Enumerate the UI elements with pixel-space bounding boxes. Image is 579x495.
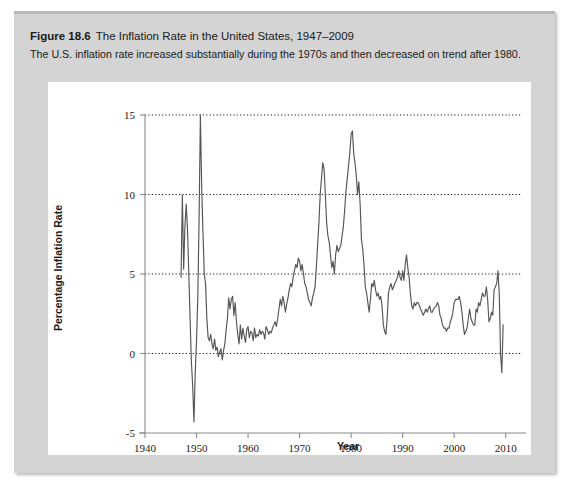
figure-subtitle: The U.S. inflation rate increased substa… xyxy=(30,47,543,62)
x-tick-label-2010: 2010 xyxy=(495,442,518,454)
x-tick-label-1940: 1940 xyxy=(134,442,157,454)
y-tick-label-5: 5 xyxy=(130,268,136,280)
y-tick-label--5: -5 xyxy=(126,427,136,439)
y-tick-label-0: 0 xyxy=(130,348,136,360)
inflation-series-line xyxy=(181,115,503,422)
x-tick-label-1990: 1990 xyxy=(392,442,415,454)
figure-title-line: Figure 18.6The Inflation Rate in the Uni… xyxy=(30,29,543,44)
chart-card: -5051015 1940195019601970198019902000201… xyxy=(48,82,531,455)
y-tick-label-10: 10 xyxy=(124,189,136,201)
x-axis-title: Year xyxy=(337,440,359,452)
figure-title: The Inflation Rate in the United States,… xyxy=(96,30,354,42)
figure-caption: Figure 18.6The Inflation Rate in the Uni… xyxy=(30,29,543,62)
x-tick-label-2000: 2000 xyxy=(443,442,466,454)
y-axis-title: Percentage Inflation Rate xyxy=(52,205,64,331)
x-tick-label-1970: 1970 xyxy=(289,442,312,454)
x-tick-label-1950: 1950 xyxy=(186,442,209,454)
figure-panel: Figure 18.6The Inflation Rate in the Uni… xyxy=(14,11,555,473)
y-tick-label-15: 15 xyxy=(124,109,136,121)
x-tick-group: 19401950196019701980199020002010 xyxy=(134,433,517,454)
y-tick-group: -5051015 xyxy=(124,109,145,439)
x-tick-label-1960: 1960 xyxy=(237,442,259,454)
inflation-line-chart: -5051015 1940195019601970198019902000201… xyxy=(48,82,531,455)
figure-number: Figure 18.6 xyxy=(30,30,91,42)
